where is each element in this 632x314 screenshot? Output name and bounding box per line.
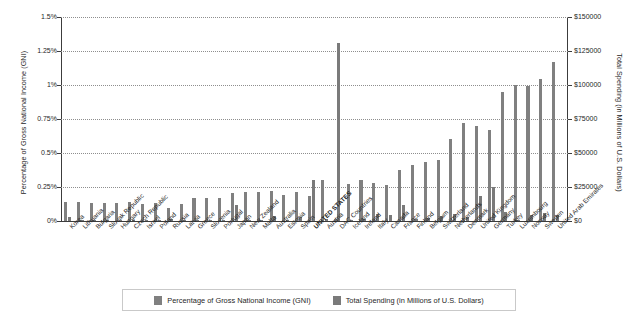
y-axis-right-tick-mark	[568, 119, 572, 120]
bar-group	[321, 18, 328, 221]
bar-gni-percentage	[437, 160, 440, 221]
bar-group	[128, 18, 135, 221]
legend-swatch	[154, 296, 162, 305]
legend-swatch	[333, 296, 341, 305]
y-axis-left-tick-mark	[57, 51, 61, 52]
bar-gni-percentage	[449, 139, 452, 220]
y-axis-left-tick-label: 1.25%	[9, 47, 57, 54]
bar-group	[437, 18, 444, 221]
bar-total-spending	[389, 215, 392, 221]
bar-group	[192, 18, 199, 221]
bar-group	[154, 18, 161, 221]
chart-legend: Percentage of Gross National Income (GNI…	[122, 289, 516, 311]
bar-group	[270, 18, 277, 221]
bar-group	[257, 18, 264, 221]
bar-group	[77, 18, 84, 221]
bar-group	[552, 18, 559, 221]
y-axis-left-tick-label: 0.5%	[9, 149, 57, 156]
bar-group	[359, 18, 366, 221]
bar-group	[180, 18, 187, 221]
bar-group	[205, 18, 212, 221]
bar-group	[424, 18, 431, 221]
y-axis-right-tick-mark	[568, 51, 572, 52]
y-axis-right-tick-mark	[568, 17, 572, 18]
legend-label: Total Spending (in Millions of U.S. Doll…	[346, 296, 484, 305]
y-axis-right-tick-label: $150000	[574, 13, 632, 20]
bar-group	[449, 18, 456, 221]
bar-group	[64, 18, 71, 221]
y-axis-left-tick-mark	[57, 17, 61, 18]
y-axis-right-tick-mark	[568, 153, 572, 154]
bar-group	[372, 18, 379, 221]
y-axis-left-title: Percentage of Gross National Income (GNI…	[19, 48, 28, 198]
y-axis-left-tick-label: 0.75%	[9, 115, 57, 122]
y-axis-left-tick-label: 0.25%	[9, 183, 57, 190]
y-axis-left-tick-label: 1%	[9, 81, 57, 88]
y-axis-right-tick-mark	[568, 85, 572, 86]
bar-total-spending	[68, 217, 71, 220]
bar-group	[231, 18, 238, 221]
bar-group	[218, 18, 225, 221]
bar-group	[282, 18, 289, 221]
chart-root: Percentage of Gross National Income (GNI…	[0, 0, 632, 314]
y-axis-left-tick-mark	[57, 119, 61, 120]
bar-group	[526, 18, 533, 221]
bar-total-spending	[337, 43, 340, 221]
bar-group	[334, 18, 341, 221]
y-axis-right-tick-label: $125000	[574, 47, 632, 54]
legend-item[interactable]: Total Spending (in Millions of U.S. Doll…	[333, 296, 484, 305]
bar-group	[462, 18, 469, 221]
y-axis-right-tick-label: $75000	[574, 115, 632, 122]
y-axis-right-tick-label: $100000	[574, 81, 632, 88]
bar-group	[90, 18, 97, 221]
plot-area	[61, 17, 568, 222]
bar-group	[115, 18, 122, 221]
y-axis-left-tick-mark	[57, 187, 61, 188]
legend-item[interactable]: Percentage of Gross National Income (GNI…	[154, 296, 310, 305]
bar-group	[475, 18, 482, 221]
bar-group	[385, 18, 392, 221]
bar-group	[539, 18, 546, 221]
bar-group	[514, 18, 521, 221]
y-axis-left-tick-mark	[57, 85, 61, 86]
bar-gni-percentage	[514, 85, 517, 221]
bar-series-container	[61, 17, 568, 222]
bar-gni-percentage	[552, 62, 555, 221]
legend-label: Percentage of Gross National Income (GNI…	[167, 296, 310, 305]
bar-group	[398, 18, 405, 221]
bar-group	[141, 18, 148, 221]
y-axis-left-tick-mark	[57, 153, 61, 154]
y-axis-left-tick-mark	[57, 221, 61, 222]
x-axis-category-labels: KoreaLithuaniaBulgariaSlovak RepublicHun…	[0, 223, 632, 289]
bar-group	[295, 18, 302, 221]
y-axis-right-tick-label: $50000	[574, 149, 632, 156]
bar-gni-percentage	[526, 86, 529, 220]
bar-group	[244, 18, 251, 221]
bar-group	[308, 18, 315, 221]
bar-group	[411, 18, 418, 221]
y-axis-left-tick-label: 1.5%	[9, 13, 57, 20]
bar-group	[167, 18, 174, 221]
y-axis-right-tick-mark	[568, 187, 572, 188]
bar-group	[501, 18, 508, 221]
bar-group	[488, 18, 495, 221]
bar-group	[103, 18, 110, 221]
